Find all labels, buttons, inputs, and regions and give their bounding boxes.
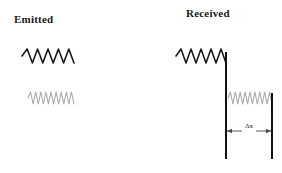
received-column-heading: Received [186, 7, 230, 19]
left-barrier-line [225, 52, 227, 159]
emitted-column-heading: Emitted [14, 13, 53, 25]
received-gray-wave-icon [228, 90, 276, 106]
received-dark-wave-icon [176, 48, 230, 64]
emitted-dark-wave-icon [22, 48, 78, 64]
wave-emission-diagram: Emitted Received Δx [0, 0, 282, 173]
delta-x-dimension: Δx [226, 122, 272, 136]
emitted-gray-wave-icon [28, 90, 78, 106]
delta-x-label: Δx [226, 122, 272, 131]
